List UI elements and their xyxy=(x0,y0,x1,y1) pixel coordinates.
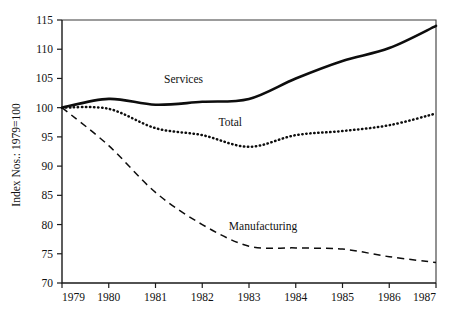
chart-container: 707580859095100105110115 197919801981198… xyxy=(0,0,456,314)
x-tick-label: 1981 xyxy=(144,291,167,303)
y-tick-label: 95 xyxy=(42,131,54,143)
series-label-total: Total xyxy=(219,116,242,128)
line-chart: 707580859095100105110115 197919801981198… xyxy=(0,0,456,314)
x-tick-label: 1985 xyxy=(331,291,354,303)
x-tick-label: 1980 xyxy=(97,291,120,303)
chart-background xyxy=(0,0,456,314)
y-tick-label: 75 xyxy=(42,248,54,260)
series-label-manufacturing: Manufacturing xyxy=(229,220,298,233)
x-tick-label: 1982 xyxy=(191,291,214,303)
y-tick-label: 115 xyxy=(36,14,53,26)
y-tick-label: 70 xyxy=(42,277,54,289)
y-axis-title: Index Nos.: 1979=100 xyxy=(10,103,22,207)
x-axis-tick-labels: 197919801981198219831984198519861987 xyxy=(62,291,436,303)
x-tick-label: 1986 xyxy=(378,291,401,303)
y-tick-label: 80 xyxy=(42,219,54,231)
x-tick-label: 1984 xyxy=(284,291,307,303)
y-tick-label: 90 xyxy=(42,160,54,172)
y-tick-label: 85 xyxy=(42,189,54,201)
series-label-services: Services xyxy=(164,73,203,85)
x-tick-label: 1983 xyxy=(238,291,261,303)
y-tick-label: 105 xyxy=(36,72,54,84)
x-tick-label: 1979 xyxy=(62,291,85,303)
y-tick-label: 110 xyxy=(36,43,53,55)
x-tick-label: 1987 xyxy=(413,291,436,303)
y-tick-label: 100 xyxy=(36,102,54,114)
